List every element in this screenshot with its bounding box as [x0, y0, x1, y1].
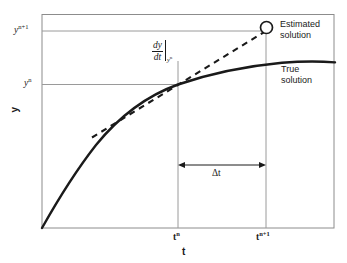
true-solution-line-1: True — [281, 64, 337, 75]
delta-t-arrow — [178, 162, 266, 168]
derivative-annotation: dy dt yn — [152, 40, 172, 62]
euler-method-figure: y t yn+1 yn tn tn+1 dy dt yn Estimated s… — [0, 0, 347, 263]
x-axis-label: t — [182, 246, 185, 258]
x-tick-tn-superscript: n — [176, 230, 180, 237]
derivative-fraction: dy dt — [152, 40, 163, 62]
plot-frame — [42, 15, 334, 229]
y-tick-label-yn1: yn+1 — [14, 25, 28, 36]
evaluated-at-superscript: n — [170, 54, 173, 59]
derivative-numerator: dy — [152, 40, 163, 51]
true-solution-label: True solution — [281, 64, 337, 86]
estimated-solution-line-1: Estimated — [280, 19, 342, 30]
derivative-evaluated-at: yn — [167, 56, 172, 63]
delta-t-label: Δt — [212, 168, 221, 179]
y-axis-label: y — [9, 107, 21, 113]
x-tick-label-tn1: tn+1 — [256, 232, 270, 243]
evaluation-bar — [165, 40, 166, 61]
x-tick-label-tn: tn — [173, 232, 180, 243]
estimated-solution-marker — [261, 22, 273, 34]
true-solution-line-2: solution — [281, 75, 337, 86]
y-tick-yn-superscript: n — [28, 76, 31, 83]
estimated-solution-line-2: solution — [280, 30, 342, 41]
estimated-solution-label: Estimated solution — [280, 19, 342, 41]
true-solution-curve — [42, 61, 335, 228]
y-tick-label-yn: yn — [24, 78, 31, 89]
derivative-denominator: dt — [153, 52, 162, 63]
x-tick-tn1-superscript: n+1 — [259, 230, 270, 237]
y-tick-yn1-superscript: n+1 — [18, 23, 28, 30]
